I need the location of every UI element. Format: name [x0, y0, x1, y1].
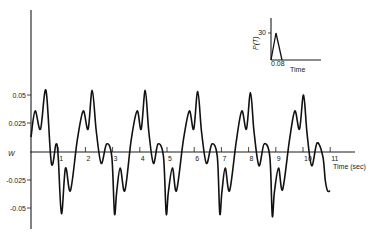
x-tick-label: 2	[86, 155, 90, 162]
inset-y-tick: 30	[258, 29, 266, 36]
response-chart: 0.05 0.025 -0.025 -0.05 W 1234567891011 …	[0, 0, 379, 236]
x-tick-label: 6	[195, 155, 199, 162]
inset-x-tick: 0.08	[271, 60, 285, 67]
x-tick-label: 4	[141, 155, 145, 162]
x-tick-label: 3	[114, 155, 118, 162]
inset-load-chart: 30 P(T) 0.08 Time	[252, 18, 321, 73]
y-tick-label: 0.05	[12, 92, 26, 99]
x-tick-label: 5	[168, 155, 172, 162]
inset-y-label: P(T)	[252, 36, 260, 50]
y-tick-label: -0.05	[10, 205, 26, 212]
y-tick-label: 0.025	[8, 120, 26, 127]
x-tick-label: 9	[277, 155, 281, 162]
x-tick-label: 1	[59, 155, 63, 162]
inset-pulse-line	[271, 33, 282, 60]
inset-x-label: Time	[290, 66, 305, 73]
x-tick-label: 7	[222, 155, 226, 162]
y-tick-label: -0.025	[6, 177, 26, 184]
y-axis-label: W	[8, 150, 16, 157]
x-tick-label: 11	[331, 155, 338, 162]
x-tick-label: 8	[250, 155, 254, 162]
x-axis-label: Time (sec)	[333, 163, 366, 171]
response-curve	[31, 90, 330, 217]
